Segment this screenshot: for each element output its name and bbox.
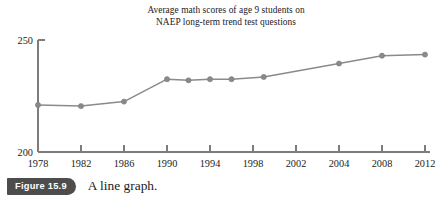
- x-tick-label-2008: 2008: [372, 158, 393, 169]
- data-point-2012: [422, 52, 427, 57]
- x-tick-label-1986: 1986: [114, 158, 135, 169]
- x-axis: 1978 1982 1986 1990 1994 1998 2002 2004 …: [28, 145, 436, 169]
- series-group: [35, 52, 427, 109]
- x-tick-label-2002: 2002: [286, 158, 307, 169]
- data-point-1986: [121, 99, 126, 104]
- data-point-1999: [261, 74, 266, 79]
- line-chart: Average math scores of age 9 students on…: [0, 0, 442, 172]
- x-tick-label-1998: 1998: [243, 158, 264, 169]
- x-tick-label-2012: 2012: [415, 158, 436, 169]
- y-tick-label-250: 250: [18, 35, 33, 46]
- figure-caption-row: Figure 15.9 A line graph.: [0, 172, 442, 200]
- chart-title-line-1: Average math scores of age 9 students on: [147, 5, 305, 15]
- figure-number-badge: Figure 15.9: [7, 178, 76, 195]
- data-point-1994: [207, 77, 212, 82]
- x-tick-label-1978: 1978: [28, 158, 49, 169]
- x-tick-label-1990: 1990: [157, 158, 178, 169]
- chart-area: Average math scores of age 9 students on…: [0, 0, 442, 172]
- data-point-1992: [186, 78, 191, 83]
- data-point-1990: [164, 77, 169, 82]
- x-tick-label-2004: 2004: [329, 158, 350, 169]
- series-markers: [35, 52, 427, 109]
- chart-title-line-2: NAEP long-term trend test questions: [156, 17, 296, 27]
- figure-caption-text: A line graph.: [88, 178, 158, 194]
- data-point-1996: [229, 77, 234, 82]
- figure-line-graph: Average math scores of age 9 students on…: [0, 0, 442, 200]
- data-point-1982: [78, 103, 83, 108]
- data-point-2008: [379, 53, 384, 58]
- data-point-1978: [35, 102, 40, 107]
- y-axis: 250 200: [18, 35, 45, 158]
- y-tick-label-200: 200: [18, 147, 33, 158]
- data-point-2004: [336, 61, 341, 66]
- x-tick-label-1982: 1982: [71, 158, 92, 169]
- x-tick-label-1994: 1994: [200, 158, 221, 169]
